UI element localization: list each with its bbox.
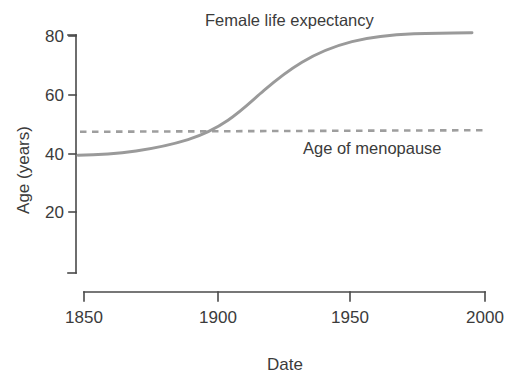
x-axis xyxy=(84,292,485,301)
y-axis-title: Age (years) xyxy=(14,126,34,214)
y-axis-title-container: Age (years) xyxy=(12,110,36,230)
y-tick-label-60: 60 xyxy=(26,87,64,104)
chart-figure: 80 60 40 20 1850 1900 1950 2000 Age (yea… xyxy=(0,0,509,384)
x-axis-title: Date xyxy=(225,356,345,373)
menopause-line xyxy=(80,130,487,132)
x-tick-label-1900: 1900 xyxy=(178,309,258,326)
x-tick-label-1950: 1950 xyxy=(310,309,390,326)
y-axis xyxy=(68,35,76,273)
annotation-female-life-expectancy: Female life expectancy xyxy=(205,12,374,29)
x-tick-label-2000: 2000 xyxy=(445,309,509,326)
annotation-age-of-menopause: Age of menopause xyxy=(303,140,442,157)
x-tick-label-1850: 1850 xyxy=(44,309,124,326)
y-tick-label-80: 80 xyxy=(26,28,64,45)
life-expectancy-line xyxy=(78,33,472,155)
